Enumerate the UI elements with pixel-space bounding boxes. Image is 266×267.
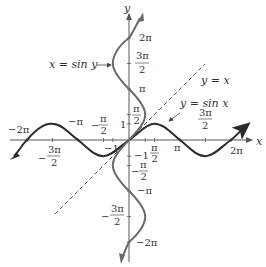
svg-text:2: 2 — [152, 153, 158, 164]
svg-text:π: π — [100, 113, 107, 124]
y-tick-pi: π — [139, 83, 146, 94]
sin-y-top-arrow-icon — [138, 12, 144, 22]
inverse-sine-reflection-diagram: x y −2π −π — [0, 0, 266, 267]
y-tick-neg-pi-over-2: − π 2 — [131, 159, 148, 182]
x-tick-neg-2pi: −2π — [8, 124, 30, 135]
y-tick-3pi-over-2: 3π 2 — [135, 50, 149, 75]
svg-text:3π: 3π — [48, 144, 61, 155]
x-tick-3pi-over-2: 3π 2 — [198, 107, 212, 131]
x-axis-label: x — [256, 135, 263, 148]
x-tick-neg-pi: −π — [68, 116, 83, 127]
svg-text:2: 2 — [101, 125, 107, 136]
svg-text:π: π — [133, 103, 140, 114]
svg-text:−: − — [91, 120, 99, 131]
svg-text:3π: 3π — [111, 203, 124, 214]
svg-text:−: − — [38, 153, 46, 164]
y-axis-label: y — [123, 2, 131, 15]
svg-text:3π: 3π — [136, 50, 149, 61]
svg-text:π: π — [140, 159, 147, 170]
svg-text:2: 2 — [139, 64, 145, 75]
x-tick-pi-over-2: π 2 — [150, 142, 159, 164]
y-tick-neg-pi: −π — [137, 185, 152, 196]
svg-text:2: 2 — [202, 120, 208, 131]
y-tick-neg-2pi: −2π — [136, 237, 158, 248]
svg-text:π: π — [151, 142, 158, 153]
svg-text:−: − — [101, 211, 109, 222]
y-tick-2pi: 2π — [139, 32, 152, 43]
y-tick-pi-over-2: π 2 — [132, 103, 141, 126]
x-tick-pi: π — [174, 142, 181, 153]
svg-text:2: 2 — [141, 171, 147, 182]
x-tick-neg-1: −1 — [104, 143, 119, 154]
svg-text:2: 2 — [114, 216, 120, 227]
arrow-to-sin-x — [169, 113, 180, 121]
x-tick-neg-3pi-over-2: − 3π 2 — [38, 144, 61, 168]
svg-text:−: − — [131, 166, 139, 177]
svg-text:2: 2 — [134, 115, 140, 126]
label-x-equals-sin-y: x = sin y — [49, 58, 98, 71]
x-tick-neg-pi-over-2: − π 2 — [91, 113, 108, 136]
x-tick-labels: −2π −π − π 2 − 3π 2 −1 π 2 π 3π 2 2π — [8, 107, 243, 168]
y-tick-neg-3pi-over-2: − 3π 2 — [101, 203, 124, 227]
label-y-equals-sin-x: y = sin x — [179, 97, 229, 110]
svg-text:2: 2 — [51, 157, 57, 168]
x-tick-2pi: 2π — [230, 145, 243, 156]
y-tick-1: 1 — [120, 119, 126, 130]
label-y-equals-x: y = x — [200, 74, 230, 87]
